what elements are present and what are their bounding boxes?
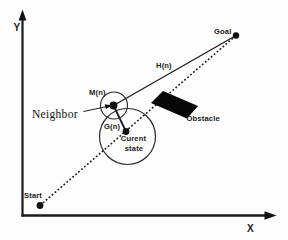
neighbor-marker-label: M(n) [89, 88, 106, 97]
goal-label: Goal [214, 27, 231, 36]
obstacle-label: Obstacle [187, 114, 220, 123]
goal-point [233, 32, 239, 38]
neighbor-pointer-line [84, 107, 107, 112]
heuristic-line [114, 36, 237, 106]
start-point [37, 202, 44, 209]
pathfinding-diagram: Y X Start Goal H(n) M(n) G(n) Neighbor C… [0, 0, 288, 240]
diagram-svg: Y X Start Goal H(n) M(n) G(n) Neighbor C… [0, 0, 288, 240]
x-axis-label: X [247, 223, 254, 234]
y-axis-arrowhead-icon [19, 10, 27, 21]
y-axis-label: Y [14, 22, 21, 33]
x-axis-arrowhead-icon [265, 211, 277, 220]
current-state-label-line1: Curent [121, 134, 147, 143]
start-label: Start [24, 191, 42, 200]
heuristic-label: H(n) [156, 61, 172, 70]
neighbor-point [110, 102, 118, 110]
neighbor-label: Neighbor [32, 108, 78, 121]
current-state-label-line2: state [125, 144, 143, 153]
cost-label: G(n) [104, 122, 121, 131]
